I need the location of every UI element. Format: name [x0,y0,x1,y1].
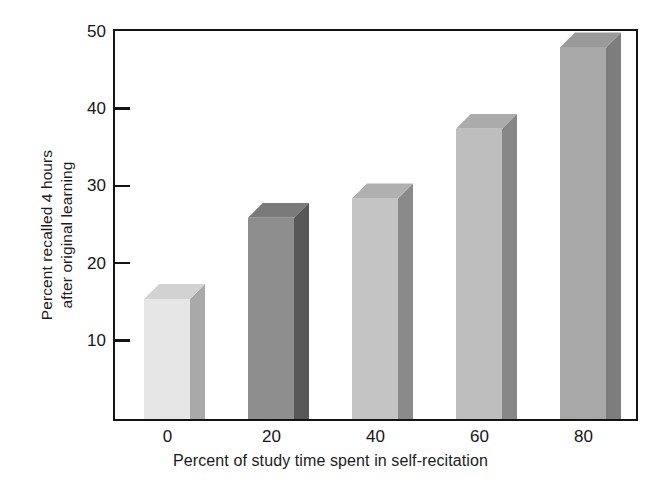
bar-side-face [606,32,621,419]
y-axis-tick-label: 30 [66,177,106,194]
x-axis-tick-label: 60 [450,428,510,445]
bar [248,203,309,419]
x-axis-tick-label: 0 [138,428,198,445]
bar [560,32,621,419]
y-axis-tick-label: 40 [66,100,106,117]
bar [352,183,413,419]
x-axis-title: Percent of study time spent in self-reci… [0,452,661,470]
x-axis-tick-label: 40 [346,428,406,445]
bar-side-face [502,114,517,419]
y-axis-tick-labels: 1020304050 [60,0,106,481]
bar-side-face [398,183,413,419]
bar [144,284,205,419]
bar [456,114,517,419]
y-axis-tick-label: 10 [66,332,106,349]
x-axis-tick-label: 80 [554,428,614,445]
y-axis-title: Percent recalled 4 hours after original … [14,90,60,380]
x-axis-tick-label: 20 [242,428,302,445]
y-axis-tick-mark [115,185,130,188]
x-axis-tick-labels: 020406080 [113,428,638,454]
chart-figure: Percent recalled 4 hours after original … [0,0,661,481]
y-axis-tick-label: 20 [66,255,106,272]
bar-side-face [190,284,205,419]
bar-front-face [560,47,606,419]
bar-front-face [456,129,502,419]
bar-front-face [352,198,398,419]
bar-side-face [294,203,309,419]
plot-area [113,29,638,421]
y-axis-tick-label: 50 [66,23,106,40]
y-axis-tick-mark [115,339,130,342]
y-axis-tick-mark [115,262,130,265]
y-axis-tick-mark [115,107,130,110]
bar-front-face [144,299,190,419]
bar-front-face [248,218,294,419]
